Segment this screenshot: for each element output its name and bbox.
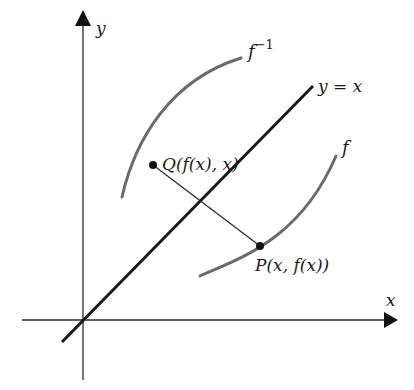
y-axis-arrow-icon bbox=[75, 10, 91, 26]
y-axis-label: y bbox=[95, 18, 106, 38]
point-q-label: Q(f(x), x) bbox=[162, 154, 239, 174]
point-p-marker bbox=[256, 242, 264, 250]
identity-line bbox=[62, 86, 313, 342]
curve-f-inverse-superscript: −1 bbox=[255, 37, 274, 52]
point-q-marker bbox=[149, 161, 157, 169]
x-axis-label: x bbox=[386, 290, 396, 310]
x-axis-arrow-icon bbox=[384, 312, 398, 328]
identity-line-label: y = x bbox=[317, 76, 363, 96]
inverse-function-diagram: y x y = x f f−1 Q(f(x), x) P(x, f(x)) bbox=[0, 0, 414, 390]
curve-f-label: f bbox=[340, 137, 352, 158]
point-p-label: P(x, f(x)) bbox=[254, 255, 329, 275]
curve-f-inverse-label: f−1 bbox=[246, 37, 274, 62]
